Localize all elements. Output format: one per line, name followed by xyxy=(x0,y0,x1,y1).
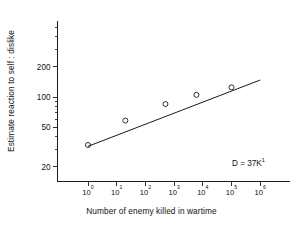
axes-group xyxy=(58,21,291,182)
x-tick-label: 100 xyxy=(82,184,93,197)
x-tick-label: 102 xyxy=(140,184,151,197)
x-axis-title: Number of enemy killed in wartime xyxy=(0,206,303,216)
y-tick-label: 200 xyxy=(37,63,51,72)
data-point xyxy=(194,92,199,97)
x-tick-label: 104 xyxy=(197,184,208,197)
x-tick-label: 106 xyxy=(255,184,266,197)
y-tick-labels: 2001005020 xyxy=(37,63,51,172)
y-axis-title-text: Estimate reaction to self : dislike xyxy=(6,29,16,151)
y-tick-label: 20 xyxy=(41,163,51,172)
trend-line xyxy=(88,80,260,146)
fit-line xyxy=(88,80,260,146)
x-tick-label: 103 xyxy=(168,184,179,197)
y-axis-title: Estimate reaction to self : dislike xyxy=(2,0,20,181)
y-tick-label: 50 xyxy=(41,123,51,132)
x-tick-label: 105 xyxy=(226,184,237,197)
chart-canvas: 2001005020 100101102103104105106 xyxy=(0,0,303,229)
x-tick-labels: 100101102103104105106 xyxy=(82,184,266,197)
equation-annotation: D = 37K1 xyxy=(232,159,265,168)
tick-marks-group xyxy=(53,27,260,186)
x-tick-label: 101 xyxy=(111,184,122,197)
equation-annotation-exponent: 1 xyxy=(262,157,265,163)
data-point xyxy=(229,85,234,90)
equation-annotation-text: D = 37K xyxy=(232,159,262,168)
data-points xyxy=(86,85,235,148)
data-point xyxy=(123,118,128,123)
data-point xyxy=(86,143,91,148)
figure-container: 2001005020 100101102103104105106 Estimat… xyxy=(0,0,303,229)
y-tick-label: 100 xyxy=(37,93,51,102)
data-point xyxy=(163,102,168,107)
